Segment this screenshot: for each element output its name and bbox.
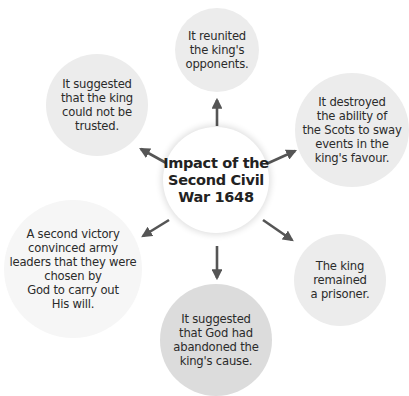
center-title: Impact of the Second Civil War 1648 xyxy=(163,155,269,206)
node-bottom-text: It suggested that God had abandoned the … xyxy=(173,312,258,368)
node-lower-right-text: The king remained a prisoner. xyxy=(311,259,370,301)
node-top-text: It reunited the king's opponents. xyxy=(185,29,248,71)
node-upper-right: It destroyed the ability of the Scots to… xyxy=(295,73,409,187)
node-upper-left: It suggested that the king could not be … xyxy=(46,54,148,156)
node-lower-left: A second victory convinced army leaders … xyxy=(4,200,142,338)
arrow-lower-left-icon xyxy=(143,220,169,236)
node-upper-left-text: It suggested that the king could not be … xyxy=(61,77,133,133)
node-center: Impact of the Second Civil War 1648 xyxy=(163,127,269,233)
node-lower-right: The king remained a prisoner. xyxy=(294,234,386,326)
arrow-lower-right-icon xyxy=(263,220,292,240)
node-upper-right-text: It destroyed the ability of the Scots to… xyxy=(302,95,401,165)
node-top: It reunited the king's opponents. xyxy=(175,8,259,92)
node-bottom: It suggested that God had abandoned the … xyxy=(160,284,272,396)
node-lower-left-text: A second victory convinced army leaders … xyxy=(9,227,136,311)
